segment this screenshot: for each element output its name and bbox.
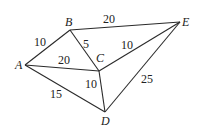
node-label-e: E xyxy=(181,15,190,29)
weight-label-a-d: 15 xyxy=(50,87,62,101)
graph-edges xyxy=(25,22,180,112)
node-label-d: D xyxy=(100,114,110,128)
node-label-c: C xyxy=(96,51,105,65)
weight-label-d-e: 25 xyxy=(141,72,153,86)
weight-label-c-e: 10 xyxy=(121,38,133,52)
edge-d-e xyxy=(105,22,180,112)
weight-label-a-b: 10 xyxy=(34,35,46,49)
edge-c-d xyxy=(99,71,105,112)
edge-c-e xyxy=(99,22,180,71)
weight-label-a-c: 20 xyxy=(58,53,70,67)
node-label-b: B xyxy=(65,15,73,29)
weight-label-b-e: 20 xyxy=(103,12,115,26)
graph-diagram: 102015520101025 ABCDE xyxy=(0,0,198,133)
weight-label-c-d: 10 xyxy=(85,77,97,91)
node-label-a: A xyxy=(14,58,23,72)
edge-b-e xyxy=(70,22,180,30)
weight-label-b-c: 5 xyxy=(83,37,89,51)
